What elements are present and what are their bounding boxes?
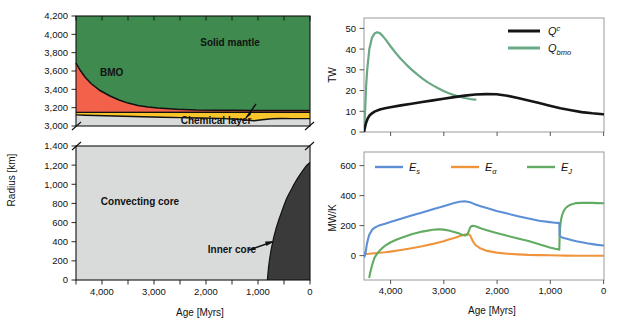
ytick-1400: 1,400 [44, 140, 68, 151]
xtick-3000: 3,000 [142, 286, 166, 297]
ytick-600: 600 [52, 217, 68, 228]
radius-axis-label: Radius [km] [6, 153, 17, 206]
entropy-xlabel: Age [Myrs] [468, 305, 516, 316]
ytick-4200: 4,200 [44, 10, 68, 21]
mwk-ytick-400: 400 [340, 190, 356, 201]
xtick-1000: 1,000 [246, 286, 270, 297]
ytick-4000: 4,000 [44, 29, 68, 40]
ytick-3400: 3,400 [44, 84, 68, 95]
tw-ytick-10: 10 [345, 106, 356, 117]
mwk-axis-label: MW/K [327, 204, 338, 232]
ytick-3800: 3,800 [44, 47, 68, 58]
mwk-xtick-3000: 3,000 [432, 285, 456, 296]
convecting-core-label: Convecting core [101, 196, 180, 207]
ytick-0: 0 [63, 274, 68, 285]
tw-ytick-40: 40 [345, 44, 356, 55]
tw-ytick-0: 0 [351, 126, 356, 137]
mantle-bmo-panel: 4,200 4,000 3,800 3,600 3,400 3,200 3,00… [44, 10, 314, 131]
xtick-0: 0 [307, 286, 312, 297]
ytick-400: 400 [52, 236, 68, 247]
ytick-1000: 1,000 [44, 179, 68, 190]
solid-mantle-label: Solid mantle [200, 37, 260, 48]
ytick-200: 200 [52, 255, 68, 266]
ytick-800: 800 [52, 198, 68, 209]
mwk-xtick-0: 0 [601, 285, 606, 296]
ytick-3000: 3,000 [44, 120, 68, 131]
tw-axis-label: TW [327, 67, 338, 83]
bmo-label: BMO [100, 67, 124, 78]
mwk-ytick-600: 600 [340, 160, 356, 171]
figure-svg: 4,200 4,000 3,800 3,600 3,400 3,200 3,00… [0, 0, 622, 329]
chemical-layer-label: Chemical layer [181, 115, 252, 126]
mwk-xtick-2000: 2,000 [485, 285, 509, 296]
figure-root: 4,200 4,000 3,800 3,600 3,400 3,200 3,00… [0, 0, 622, 329]
tw-ytick-50: 50 [345, 23, 356, 34]
tw-ytick-30: 30 [345, 64, 356, 75]
tw-ytick-20: 20 [345, 85, 356, 96]
xtick-2000: 2,000 [194, 286, 218, 297]
mwk-ytick-0: 0 [351, 250, 356, 261]
mwk-ytick-200: 200 [340, 220, 356, 231]
ytick-3600: 3,600 [44, 65, 68, 76]
core-panel-xlabel: Age [Myrs] [176, 307, 224, 318]
xtick-4000: 4,000 [90, 286, 114, 297]
mwk-xtick-1000: 1,000 [538, 285, 562, 296]
ytick-3200: 3,200 [44, 102, 68, 113]
ytick-1200: 1,200 [44, 160, 68, 171]
mwk-xtick-4000: 4,000 [379, 285, 403, 296]
